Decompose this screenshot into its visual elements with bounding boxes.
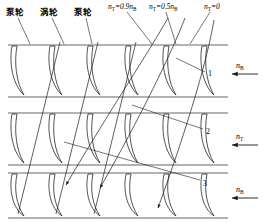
speed-ratio-label-00: nT=0	[204, 3, 220, 11]
blades-row-pump-upper	[11, 46, 214, 95]
ratio-05-rel: =0.5	[156, 2, 170, 11]
ratio-05-sub2: B	[174, 6, 177, 12]
leader-lines-callouts	[64, 58, 205, 180]
wheel-label-pump-1: 泵轮	[6, 8, 24, 17]
ratio-00-sub1: T	[208, 6, 211, 12]
wheel-label-turbine-1: 涡轮	[40, 8, 58, 17]
nT-mid-sub: T	[240, 136, 243, 142]
leader-lines-wheels	[18, 18, 92, 44]
ratio-05-sub1: T	[153, 6, 156, 12]
speed-ratio-label-09: nT=0.9nB	[108, 3, 137, 11]
speed-label-nB-top: nB	[236, 62, 244, 70]
nB-bot-sub: B	[240, 189, 244, 195]
row-boundaries	[8, 45, 228, 218]
ratio-00-rel: =0	[211, 2, 220, 11]
speed-ratio-label-05: nT=0.5nB	[149, 3, 178, 11]
callout-number-3: 3	[203, 180, 207, 188]
figure-canvas: 泵轮 涡轮 泵轮 nT=0.9nB nT=0.5nB nT=0 1 2 3 nB…	[0, 0, 264, 224]
callout-number-2: 2	[206, 128, 210, 136]
ratio-09-sub1: T	[112, 6, 115, 12]
cascade-diagram	[0, 0, 264, 224]
wheel-label-pump-2: 泵轮	[74, 8, 92, 17]
nB-top-sub: B	[240, 65, 244, 71]
callout-number-1: 1	[208, 70, 212, 78]
ratio-09-rel: =0.9	[115, 2, 129, 11]
flow-trajectories	[18, 18, 214, 214]
leader-lines-ratios	[127, 12, 210, 44]
speed-label-nT-middle: nT	[236, 133, 243, 141]
speed-label-nB-bottom: nB	[236, 186, 244, 194]
ratio-09-sub2: B	[133, 6, 136, 12]
blades-row-pump-lower	[11, 174, 214, 216]
